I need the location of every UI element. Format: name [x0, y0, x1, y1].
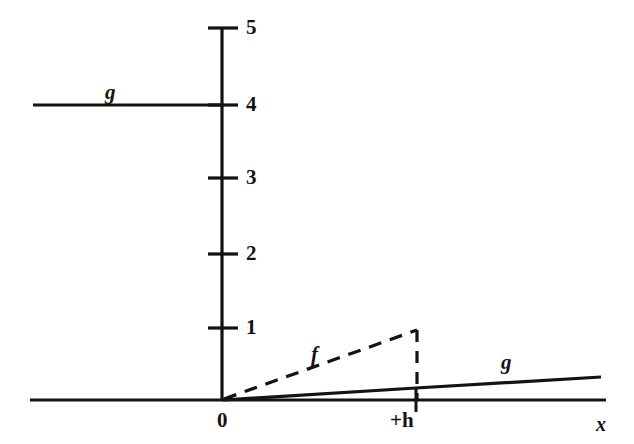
figure-canvas: 5 4 3 2 1 0 +h x g f g	[0, 0, 634, 444]
y-tick-label-1: 1	[246, 317, 257, 338]
curve-label-g-right: g	[501, 352, 512, 373]
chart-plot-area	[0, 0, 634, 444]
x-tick-label-origin: 0	[217, 410, 228, 431]
curve-label-f: f	[311, 344, 318, 365]
x-axis-label: x	[596, 414, 606, 434]
y-tick-label-3: 3	[246, 167, 257, 188]
series-g-ray	[223, 377, 601, 400]
y-tick-label-2: 2	[246, 243, 257, 264]
curve-label-g-left: g	[105, 82, 116, 103]
x-tick-label-plus-h: +h	[390, 410, 414, 431]
y-tick-label-4: 4	[246, 94, 257, 115]
y-tick-label-5: 5	[246, 17, 257, 38]
